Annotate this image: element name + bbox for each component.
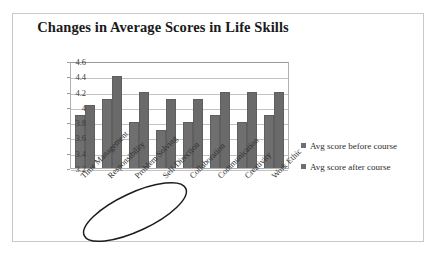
x-axis-labels: Time ManagementResponsibilityProblem Sol… xyxy=(58,171,338,256)
legend-swatch-icon xyxy=(301,143,306,148)
y-axis-tick-mark xyxy=(67,154,70,155)
y-axis-tick-label: 3.4 xyxy=(46,149,86,159)
y-axis-tick-mark xyxy=(67,93,70,94)
y-axis-tick-mark xyxy=(67,108,70,109)
bar-after-course xyxy=(166,99,176,168)
y-axis-tick-mark xyxy=(67,77,70,78)
legend-item-after: Avg score after course xyxy=(301,156,436,177)
chart-title: Changes in Average Scores in Life Skills xyxy=(13,19,313,36)
y-axis-tick-label: 4.4 xyxy=(46,72,86,82)
bar-after-course xyxy=(193,99,203,168)
y-axis-tick-label: 3.8 xyxy=(46,118,86,128)
y-axis-tick-mark xyxy=(67,169,70,170)
legend-swatch-icon xyxy=(301,164,306,169)
chart-legend: Avg score before course Avg score after … xyxy=(301,135,436,177)
y-axis-tick-mark xyxy=(67,123,70,124)
y-axis-tick-label: 3.6 xyxy=(46,133,86,143)
legend-item-before: Avg score before course xyxy=(301,135,436,156)
legend-label-after: Avg score after course xyxy=(310,162,391,172)
bar-after-course xyxy=(112,76,122,168)
bar-after-course xyxy=(247,92,257,168)
y-axis-tick-mark xyxy=(67,62,70,63)
y-axis-tick-mark xyxy=(67,138,70,139)
bar-after-course xyxy=(220,92,230,168)
legend-label-before: Avg score before course xyxy=(310,141,397,151)
y-axis-tick-label: 4.2 xyxy=(46,88,86,98)
chart-frame: Changes in Average Scores in Life Skills… xyxy=(12,13,424,242)
bar-after-course xyxy=(139,92,149,168)
y-axis-tick-label: 4.6 xyxy=(46,57,86,67)
bar-after-course xyxy=(274,92,284,168)
y-axis-tick-label: 4 xyxy=(46,103,86,113)
